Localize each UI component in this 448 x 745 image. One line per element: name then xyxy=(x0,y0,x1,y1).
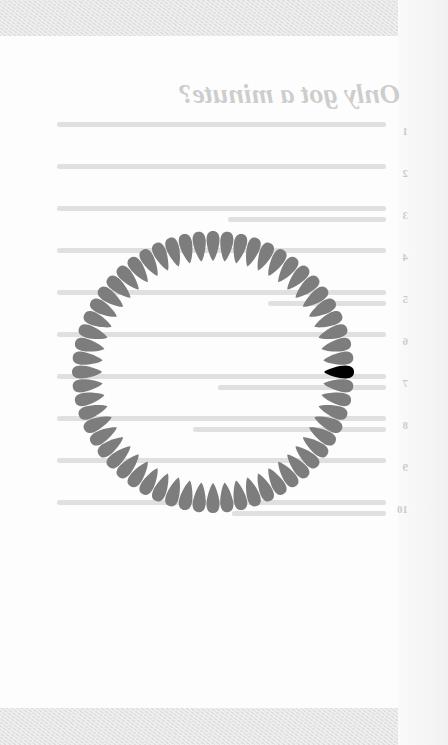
list-item-number: 8 xyxy=(403,416,409,434)
spinner-active-petal xyxy=(324,366,354,379)
spinner-petal xyxy=(72,351,103,367)
loading-spinner xyxy=(72,226,354,518)
list-item-text-line xyxy=(57,206,386,211)
list-item-number: 9 xyxy=(403,458,409,476)
list-item-text-line xyxy=(57,122,386,127)
spinner-petal xyxy=(207,483,220,513)
list-item-text-line xyxy=(57,164,386,169)
spinner-petal xyxy=(323,377,354,393)
list-item-number: 6 xyxy=(403,332,409,350)
list-item-number: 1 xyxy=(403,122,409,140)
spinner-petal xyxy=(72,377,103,393)
list-item-number: 7 xyxy=(403,374,409,392)
spinner-petal xyxy=(207,231,220,261)
spinner-petal xyxy=(72,366,102,379)
list-item-number: 5 xyxy=(403,290,409,308)
list-item: 1 xyxy=(28,122,408,158)
spinner-petals-icon xyxy=(72,226,354,518)
bottom-noise-band xyxy=(0,708,398,745)
spinner-petal xyxy=(323,351,354,367)
list-item-number: 3 xyxy=(403,206,409,224)
page-title: Only got a minute? xyxy=(178,78,400,110)
list-item-number: 10 xyxy=(397,500,408,518)
spinner-petal xyxy=(218,482,234,513)
spinner-petal xyxy=(192,231,208,262)
list-item-number: 4 xyxy=(403,248,409,266)
list-item-number: 2 xyxy=(403,164,409,182)
list-item: 2 xyxy=(28,164,408,200)
list-item-text-line xyxy=(228,217,386,222)
spinner-petal xyxy=(192,482,208,513)
spinner-petal xyxy=(218,231,234,262)
